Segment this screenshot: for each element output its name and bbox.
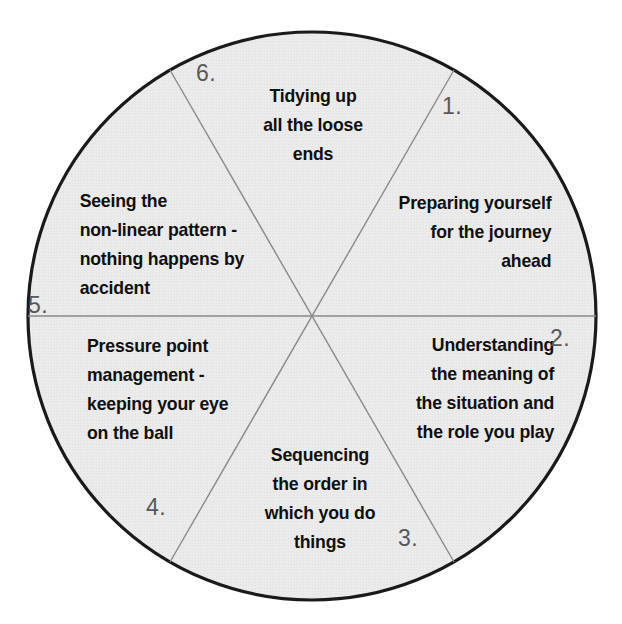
wheel-svg-canvas xyxy=(0,0,622,624)
wheel-diagram: Tidying up all the loose ends 6. Prepari… xyxy=(0,0,622,624)
